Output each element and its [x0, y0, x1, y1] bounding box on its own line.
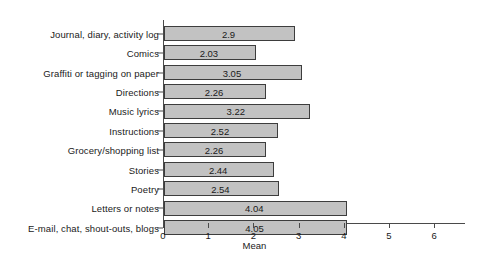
y-axis-tick [157, 188, 163, 189]
bar-row: Journal, diary, activity log2.9 [0, 25, 479, 43]
category-label: Grocery/shopping list [68, 145, 159, 156]
x-axis-tick-mark [389, 223, 390, 228]
x-axis-tick-mark [208, 223, 209, 228]
bar-row: Letters or notes4.04 [0, 200, 479, 218]
bar-value-label: 3.22 [227, 106, 246, 117]
category-label: Graffiti or tagging on paper [43, 67, 159, 78]
y-axis-tick [157, 53, 163, 54]
y-axis-tick [157, 111, 163, 112]
y-axis-tick [157, 91, 163, 92]
bar-value-label: 2.03 [200, 48, 219, 59]
category-label: Letters or notes [91, 203, 159, 214]
x-axis-tick-mark [253, 223, 254, 228]
bar-value-label: 2.44 [209, 164, 228, 175]
bar-rows: Journal, diary, activity log2.9Comics2.0… [0, 25, 479, 238]
x-axis-tick-mark [434, 223, 435, 228]
category-label: Journal, diary, activity log [50, 28, 159, 39]
bar-row: Poetry2.54 [0, 180, 479, 198]
category-label: Directions [116, 86, 159, 97]
bar-value-label: 2.26 [205, 86, 224, 97]
x-axis-tick-mark [163, 223, 164, 228]
category-label: Music lyrics [109, 106, 159, 117]
bar-row: Graffiti or tagging on paper3.05 [0, 64, 479, 82]
bar-value-label: 2.52 [211, 125, 230, 136]
bar-value-label: 3.05 [223, 67, 242, 78]
bar-row: Instructions2.52 [0, 122, 479, 140]
y-axis-tick [157, 130, 163, 131]
y-axis-tick [157, 150, 163, 151]
bar-value-label: 2.26 [205, 145, 224, 156]
category-label: Comics [127, 48, 159, 59]
category-label: Stories [129, 164, 159, 175]
bar-row: Stories2.44 [0, 161, 479, 179]
bar-value-label: 2.54 [211, 183, 230, 194]
x-axis-title: Mean [0, 240, 479, 251]
bar-value-label: 4.04 [245, 203, 264, 214]
y-axis-tick [157, 169, 163, 170]
bar-chart: Journal, diary, activity log2.9Comics2.0… [0, 0, 479, 262]
category-label: Poetry [131, 183, 159, 194]
category-label: Instructions [109, 125, 159, 136]
bar-value-label: 2.9 [222, 28, 235, 39]
x-axis-tick-mark [299, 223, 300, 228]
bar-row: Grocery/shopping list2.26 [0, 141, 479, 159]
y-axis-tick [157, 72, 163, 73]
bar-row: Comics2.03 [0, 44, 479, 62]
bar-row: Directions2.26 [0, 83, 479, 101]
y-axis-tick [157, 33, 163, 34]
bar-row: Music lyrics3.22 [0, 103, 479, 121]
y-axis-tick [157, 208, 163, 209]
x-axis-tick-mark [344, 223, 345, 228]
